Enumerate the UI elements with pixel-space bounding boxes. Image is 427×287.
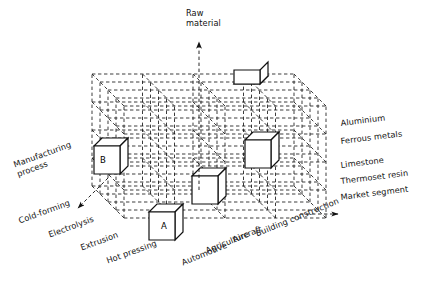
manufacturing-process-axis-line bbox=[78, 178, 108, 208]
highlighted-cube-right[interactable] bbox=[245, 132, 279, 168]
raw-material-axis-title-line2: material bbox=[186, 18, 221, 28]
cube-label-a: A bbox=[161, 221, 167, 231]
cube-label-b: B bbox=[100, 155, 106, 165]
raw-material-axis-title: Raw material bbox=[186, 8, 221, 28]
highlighted-cube-centre[interactable] bbox=[192, 168, 226, 204]
diagram-canvas: B A Raw material Manufacturing process A… bbox=[0, 0, 427, 287]
highlighted-cube-top[interactable] bbox=[234, 62, 268, 84]
raw-material-axis-title-line1: Raw bbox=[186, 8, 221, 18]
